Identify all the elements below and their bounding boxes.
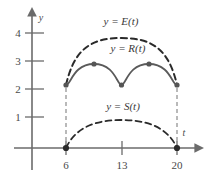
y-axis-label: y (38, 12, 44, 23)
data-point-marker (63, 82, 68, 87)
data-point-marker (119, 82, 124, 87)
endpoint-marker-t20 (174, 145, 180, 151)
y-tick-label-2: 2 (15, 83, 21, 95)
chart-plot: 1 2 3 4 6 13 20 y t y = E(t) y = R(t) y … (0, 0, 209, 176)
y-tick-marks (25, 33, 44, 117)
data-point-marker (91, 61, 96, 66)
curve-ripple-R (66, 64, 177, 85)
curve-label-E: y = E(t) (103, 15, 139, 28)
data-point-marker (174, 82, 179, 87)
figure-container: 1 2 3 4 6 13 20 y t y = E(t) y = R(t) y … (0, 0, 209, 176)
y-tick-label-1: 1 (15, 111, 21, 123)
axes-group (14, 15, 196, 170)
curve-label-R: y = R(t) (110, 42, 146, 55)
x-tick-label-20: 20 (172, 159, 184, 171)
ripple-data-markers (63, 61, 179, 87)
x-tick-label-6: 6 (63, 159, 69, 171)
endpoint-marker-t6 (63, 145, 69, 151)
x-tick-label-13: 13 (117, 159, 129, 171)
curve-label-S: y = S(t) (105, 100, 140, 113)
y-tick-label-4: 4 (15, 27, 21, 39)
data-point-marker (146, 61, 151, 66)
x-axis-label: t (183, 127, 186, 138)
vertical-dashed-lines (66, 85, 177, 148)
y-tick-label-3: 3 (15, 55, 21, 67)
